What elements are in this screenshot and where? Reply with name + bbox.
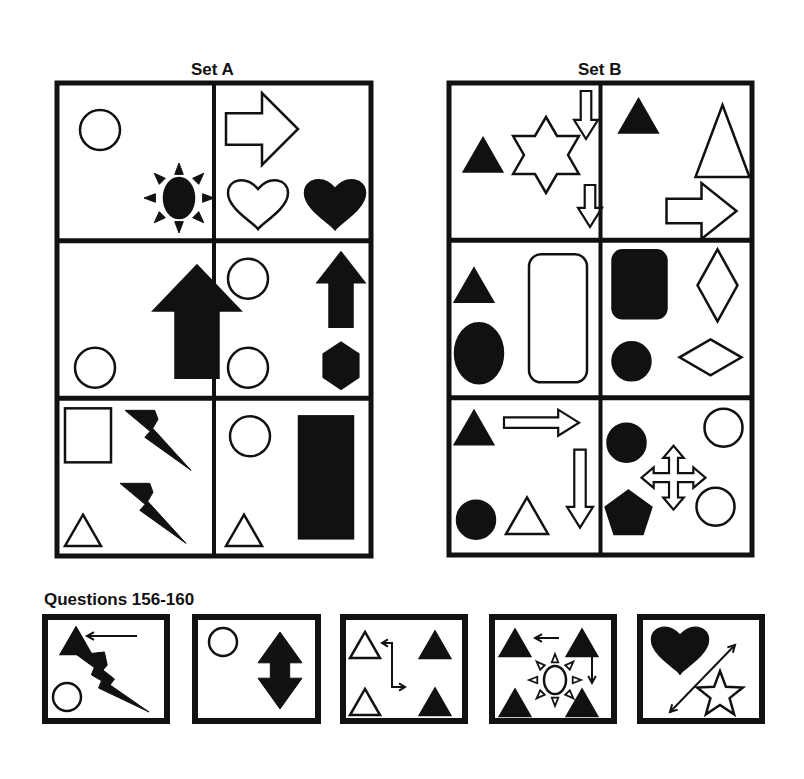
filled-heart-icon [305,180,365,229]
hollow-triangle-icon [65,515,101,546]
elbow-arrow-icon [382,639,405,690]
hollow-triangle-icon [506,497,548,534]
filled-circle-icon [457,501,495,539]
hollow-circle-icon [228,348,268,388]
hollow-rounded-rectangle-icon [529,254,587,382]
hollow-block-arrow-right-icon [667,183,737,239]
filled-ellipse-icon [455,323,503,383]
filled-circle-icon [608,424,646,462]
hollow-arrow-down-icon [574,91,598,139]
line-arrow-icon [588,657,596,683]
sun-icon [529,654,581,706]
filled-rounded-rectangle-icon [613,250,667,318]
set-b-cell-1 [464,91,602,227]
filled-triangle-icon [500,690,530,716]
hollow-triangle-icon [696,105,750,177]
lightning-bolt-icon [120,483,186,543]
set-b-cell-2 [620,99,750,239]
set-b-cell-5 [455,410,593,539]
hollow-heart-icon [228,180,288,229]
set-a-cell-6 [226,416,353,546]
filled-triangle-icon [420,689,450,715]
filled-triangle-icon [455,269,493,302]
filled-triangle-icon [464,138,502,171]
hollow-triangle-icon [226,515,262,546]
sun-icon [144,163,214,233]
line-arrow-icon [535,634,559,642]
filled-block-arrow-up-icon [318,253,364,327]
hollow-circle-icon [228,259,268,299]
filled-heart-icon [652,628,708,673]
lightning-bolt-icon [125,410,191,470]
set-b-grid [449,83,752,555]
hollow-circle-icon [705,409,743,447]
filled-triangle-icon [620,99,658,132]
hollow-circle-icon [209,628,237,656]
puzzle-canvas [0,0,804,779]
question-156 [45,617,167,721]
question-159 [492,617,614,721]
four-way-arrow-icon [642,446,706,510]
hollow-circle-icon [697,488,735,526]
hollow-triangle-icon [350,632,380,658]
hollow-circle-icon [75,348,115,388]
set-a-cell-4 [228,253,364,389]
filled-triangle-icon [567,630,597,656]
hollow-rectangle-icon [65,408,111,462]
filled-circle-icon [613,342,651,380]
filled-triangle-icon [500,630,530,656]
lightning-bolt-icon [77,652,149,712]
set-a-cell-1 [80,110,214,233]
hollow-circle-icon [80,110,120,150]
filled-pentagon-icon [606,491,652,534]
filled-hexagon-icon [324,343,359,389]
question-158 [343,617,465,721]
set-a-cell-5 [65,408,191,546]
hollow-circle-icon [230,416,270,456]
filled-triangle-icon [61,628,91,654]
set-a-grid [57,83,371,556]
filled-triangle-icon [455,411,493,444]
hollow-triangle-icon [350,689,380,715]
set-b-cell-4 [613,249,742,380]
filled-rectangle-icon [299,416,353,538]
line-arrow-icon [87,632,137,640]
filled-triangle-icon [420,632,450,658]
hollow-diamond-icon [680,339,742,375]
hollow-arrow-down-icon [567,450,593,528]
hollow-star-icon [513,117,579,193]
hollow-circle-icon [53,683,81,711]
question-157 [195,617,318,721]
set-a-cell-2 [226,93,365,229]
hollow-arrow-right-icon [504,410,579,436]
set-b-cell-3 [455,254,587,383]
set-b-cell-6 [606,409,743,534]
hollow-diamond-icon [698,249,738,321]
hollow-block-arrow-right-icon [226,93,298,165]
double-arrow-vertical-icon [258,632,302,709]
question-160 [640,617,762,721]
hollow-arrow-down-icon [578,185,602,227]
